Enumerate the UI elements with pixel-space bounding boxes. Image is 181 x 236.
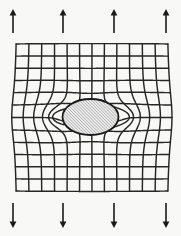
load-arrow-down bbox=[163, 203, 170, 228]
stress-field-diagram bbox=[0, 0, 181, 236]
mesh-line-horizontal bbox=[15, 80, 170, 81]
elliptical-inclusion bbox=[63, 99, 119, 135]
arrow-head bbox=[163, 9, 170, 16]
bottom-load-arrows bbox=[10, 203, 170, 228]
load-arrow-up bbox=[60, 9, 67, 33]
mesh-line-horizontal bbox=[109, 130, 172, 131]
arrow-head bbox=[163, 222, 170, 229]
load-arrow-up bbox=[163, 9, 170, 33]
mesh-line-vertical bbox=[104, 132, 106, 192]
load-arrow-down bbox=[10, 203, 17, 228]
figure-canvas: Stress-field distortion of a square grid… bbox=[0, 0, 181, 236]
load-arrow-up bbox=[10, 9, 17, 33]
mesh-line-horizontal bbox=[12, 130, 72, 131]
mesh-line-vertical bbox=[80, 44, 81, 100]
arrow-head bbox=[60, 222, 67, 229]
arrow-head bbox=[60, 9, 67, 16]
mesh-line-horizontal bbox=[12, 103, 71, 105]
mesh-line-horizontal bbox=[118, 118, 172, 121]
arrow-head bbox=[10, 9, 17, 16]
arrow-head bbox=[111, 222, 118, 229]
top-load-arrows bbox=[10, 9, 170, 33]
arrow-head bbox=[10, 222, 17, 229]
arrow-head bbox=[111, 9, 118, 16]
load-arrow-down bbox=[111, 203, 118, 228]
load-arrow-down bbox=[60, 203, 67, 228]
mesh-line-horizontal bbox=[110, 103, 172, 105]
load-arrow-up bbox=[111, 9, 118, 33]
